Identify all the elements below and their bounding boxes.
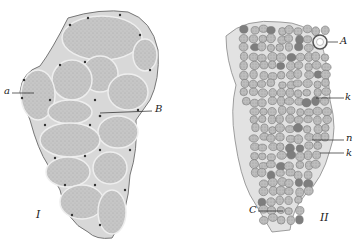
panel-II-numeral: II <box>320 212 329 223</box>
label-a: a <box>4 86 10 96</box>
label-n: n <box>346 133 352 143</box>
label-k-lower: k <box>346 148 352 158</box>
label-A: A <box>340 36 347 46</box>
panel-I-numeral: I <box>36 209 40 220</box>
panel-I-tissue <box>20 11 158 239</box>
label-C: C <box>249 205 257 215</box>
label-k-upper: k <box>345 92 351 102</box>
label-B: B <box>155 104 162 114</box>
histology-figure <box>0 0 358 244</box>
